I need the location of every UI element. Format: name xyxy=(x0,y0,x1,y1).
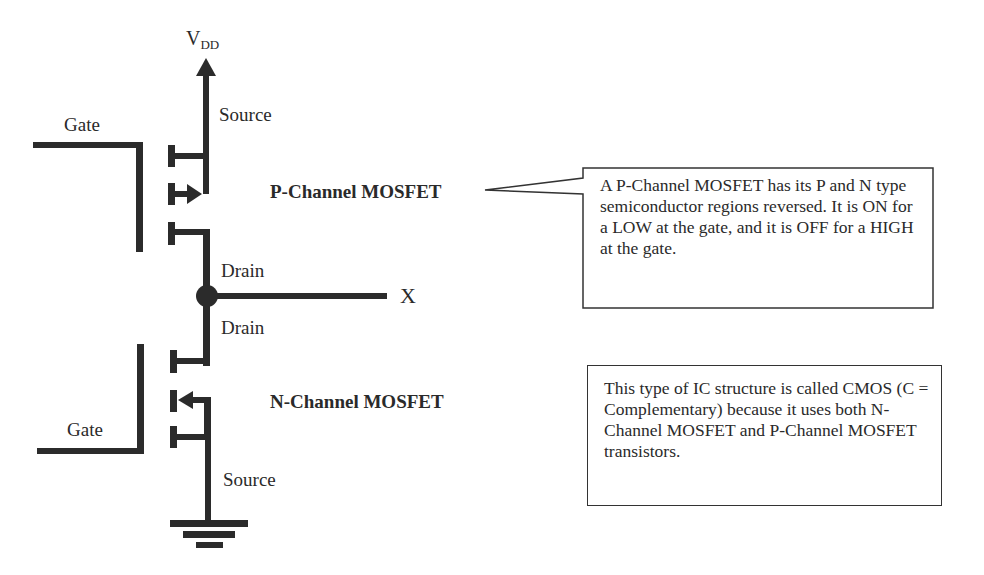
p-gate-wire-vertical xyxy=(136,142,143,252)
p-body-plate xyxy=(168,183,175,205)
p-drain-label: Drain xyxy=(221,261,264,280)
ground-bar-2 xyxy=(183,531,235,538)
p-gate-wire-horizontal xyxy=(33,142,143,148)
p-channel-title: P-Channel MOSFET xyxy=(270,182,442,201)
n-source-plate xyxy=(170,426,177,448)
vdd-label: VDD xyxy=(186,28,219,51)
p-source-label: Source xyxy=(219,105,272,124)
n-drain-label: Drain xyxy=(221,318,264,337)
vdd-arrow-icon xyxy=(196,58,216,76)
n-drain-wire xyxy=(203,296,210,366)
vdd-label-subscript: DD xyxy=(200,37,219,52)
vdd-wire xyxy=(203,74,209,194)
n-gate-wire-horizontal xyxy=(37,448,144,454)
output-wire xyxy=(207,293,387,299)
ground-bar-3 xyxy=(196,542,223,548)
n-drain-stub xyxy=(175,358,210,364)
vdd-label-main: V xyxy=(186,27,200,49)
n-body-plate xyxy=(170,390,177,412)
n-body-wire xyxy=(204,397,211,437)
p-body-stub xyxy=(175,191,189,197)
n-source-label: Source xyxy=(223,470,276,489)
output-x-label: X xyxy=(400,285,416,307)
n-channel-title: N-Channel MOSFET xyxy=(270,392,444,411)
n-gate-wire-vertical xyxy=(137,344,144,454)
p-channel-callout-box: A P-Channel MOSFET has its P and N type … xyxy=(584,169,933,308)
p-source-stub xyxy=(175,153,207,159)
p-body-arrow-icon xyxy=(187,184,202,204)
p-drain-plate xyxy=(168,222,175,245)
n-gate-label: Gate xyxy=(67,420,103,439)
ground-bar-1 xyxy=(170,520,248,527)
n-drain-plate xyxy=(170,350,177,373)
p-source-plate xyxy=(168,145,175,167)
n-source-wire xyxy=(205,434,211,524)
cmos-callout-box: This type of IC structure is called CMOS… xyxy=(587,365,942,506)
p-gate-label: Gate xyxy=(64,115,100,134)
